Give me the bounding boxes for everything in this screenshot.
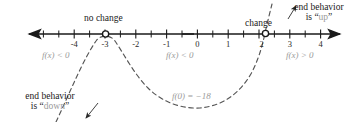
tick-label-3: 3 [288,40,292,49]
change-label: change [245,19,272,29]
end-behavior-up-suffix: ” [328,12,332,22]
sign-label-middle: f(x) < 0 [166,51,194,60]
end-behavior-up-prefix: is “ [306,12,319,22]
end-behavior-up-word: up [319,12,329,22]
value-at-zero-label: f(0) = −18 [172,92,211,101]
tick-label-zero: 0 [195,40,199,49]
tick-label-2: 2 [259,40,263,49]
end-behavior-down-suffix: ” [65,101,69,111]
tick-label-neg3: -3 [101,40,108,49]
end-behavior-up-line2: is “up” [286,13,352,23]
end-behavior-down-prefix: is “ [31,101,44,111]
end-behavior-down-label: end behavior is “down” [6,92,94,112]
tick-label-neg1: -1 [163,40,170,49]
sign-label-left: f(x) < 0 [42,51,70,60]
tick-label-1: 1 [226,40,230,49]
tangent-point-marker [103,31,109,37]
tick-label-4: 4 [318,40,322,49]
tick-label-neg4: -4 [71,40,78,49]
polynomial-sign-chart-figure: -4 -3 -2 -1 0 1 2 3 4 no change change e… [0,0,356,122]
end-behavior-down-word: down [44,101,65,111]
tick-label-neg2: -2 [132,40,139,49]
sign-label-right: f(x) > 0 [286,51,314,60]
crossing-point-marker [262,30,268,36]
end-behavior-up-label: end behavior is “up” [286,3,352,23]
no-change-label: no change [84,14,123,24]
end-behavior-down-line2: is “down” [6,102,94,112]
